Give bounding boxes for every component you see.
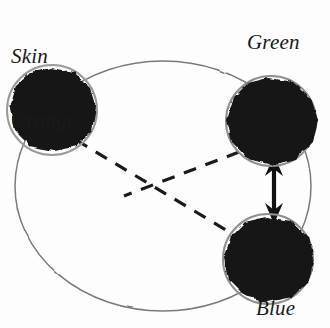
color-relationship-diagram: Skin Orange Green Blue [0, 0, 330, 328]
node-label-green: Green [247, 32, 300, 53]
node-blob-green[interactable] [226, 76, 318, 166]
node-blob-blue[interactable] [223, 214, 314, 304]
connector-green-to-skin-orange [124, 152, 239, 196]
node-label-skin-orange-line1: Skin [11, 46, 76, 67]
node-label-skin-orange-line2: Orange [11, 110, 76, 131]
node-label-skin-orange: Skin Orange [11, 3, 76, 174]
node-label-blue: Blue [256, 298, 295, 319]
connector-skin-orange-to-blue [76, 140, 236, 236]
